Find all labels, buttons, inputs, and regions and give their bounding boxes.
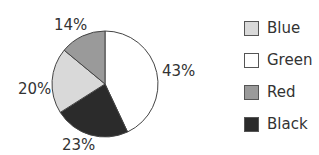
legend-swatch bbox=[244, 21, 259, 36]
label-blue: 20% bbox=[18, 80, 51, 98]
legend-item-blue: Blue bbox=[244, 12, 312, 44]
legend-label: Red bbox=[267, 83, 296, 101]
legend-label: Blue bbox=[267, 19, 300, 37]
legend-swatch bbox=[244, 117, 259, 132]
label-red: 14% bbox=[54, 16, 87, 34]
label-black: 23% bbox=[62, 136, 95, 154]
legend-swatch bbox=[244, 85, 259, 100]
legend: Blue Green Red Black bbox=[244, 12, 312, 140]
legend-label: Black bbox=[267, 115, 308, 133]
legend-label: Green bbox=[267, 51, 312, 69]
legend-item-red: Red bbox=[244, 76, 312, 108]
legend-swatch bbox=[244, 53, 259, 68]
label-green: 43% bbox=[162, 62, 195, 80]
legend-item-black: Black bbox=[244, 108, 312, 140]
legend-item-green: Green bbox=[244, 44, 312, 76]
